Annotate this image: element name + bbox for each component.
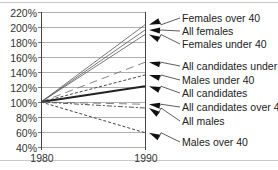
legend-label: Females over 40 xyxy=(182,12,260,24)
legend-leader-line xyxy=(161,18,180,25)
legend-label: Males under 40 xyxy=(182,74,255,86)
legend-leader-line xyxy=(161,75,180,80)
legend-leader-line xyxy=(161,30,180,31)
legend-label: Males over 40 xyxy=(182,136,248,148)
legend-label: All males xyxy=(182,115,225,127)
legend-label: Females under 40 xyxy=(182,38,267,50)
series-line xyxy=(41,25,145,102)
legend-label: All candidates over 40 xyxy=(182,101,278,113)
legend: Females over 40All femalesFemales under … xyxy=(149,12,278,148)
y-tick-label: 120% xyxy=(10,82,37,94)
series-line xyxy=(41,30,145,102)
x-axis: 19801990 xyxy=(30,152,158,164)
line-chart: 40%60%80%100%120%140%160%180%200%220% 19… xyxy=(0,0,278,170)
legend-arrow-icon xyxy=(149,18,160,25)
gridlines xyxy=(41,13,145,148)
y-tick-label: 80% xyxy=(16,112,37,124)
legend-arrow-icon xyxy=(149,86,160,93)
legend-leader-line xyxy=(161,35,180,45)
legend-leader-line xyxy=(161,86,180,93)
legend-arrow-icon xyxy=(149,108,160,117)
legend-arrow-icon xyxy=(149,28,160,34)
legend-arrow-icon xyxy=(149,35,160,43)
y-tick-label: 160% xyxy=(10,52,37,64)
legend-leader-line xyxy=(161,104,180,107)
y-tick-label: 200% xyxy=(10,22,37,34)
legend-leader-stub xyxy=(160,30,161,31)
series-line xyxy=(41,86,145,102)
legend-label: All candidates under 40 xyxy=(182,60,278,72)
legend-arrow-icon xyxy=(149,75,160,81)
legend-leader-line xyxy=(161,133,180,142)
legend-leader-line xyxy=(161,62,180,66)
y-tick-label: 60% xyxy=(16,127,37,139)
legend-arrow-icon xyxy=(149,61,160,67)
legend-arrow-icon xyxy=(149,103,160,109)
y-tick-label: 180% xyxy=(10,37,37,49)
legend-arrow-icon xyxy=(149,133,160,141)
x-tick-label: 1990 xyxy=(134,152,158,164)
y-tick-label: 220% xyxy=(10,7,37,19)
x-tick-label: 1980 xyxy=(30,152,54,164)
legend-leader-stub xyxy=(158,108,161,114)
series-lines xyxy=(41,25,145,133)
y-tick-label: 100% xyxy=(10,97,37,109)
legend-label: All candidates xyxy=(182,87,247,99)
legend-label: All females xyxy=(182,25,233,37)
y-tick-label: 140% xyxy=(10,67,37,79)
legend-leader-line xyxy=(161,108,180,121)
